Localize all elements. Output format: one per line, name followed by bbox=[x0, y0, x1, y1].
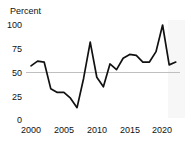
plot-area bbox=[0, 0, 185, 144]
data-series-line bbox=[31, 25, 176, 108]
chart-container: Percent 100 75 50 25 0 2000 2005 2010 20… bbox=[0, 0, 185, 144]
